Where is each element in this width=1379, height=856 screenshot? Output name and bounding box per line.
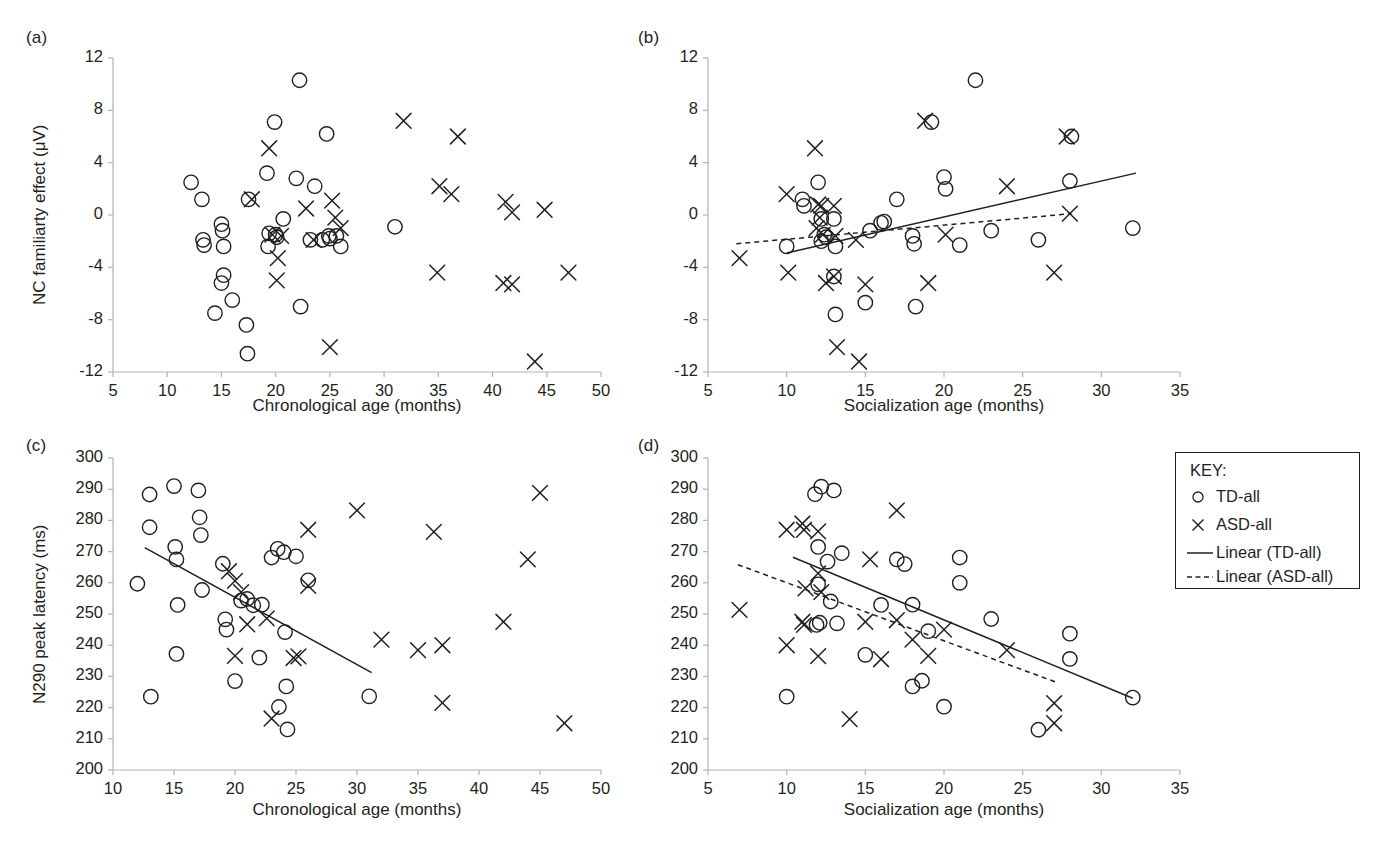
panel-d-point-asd xyxy=(842,712,857,727)
panel-b-point-asd xyxy=(830,340,845,355)
legend-item-linear-asd-all: Linear (ASD-all) xyxy=(1186,567,1333,586)
panel-a-y-tick: -12 xyxy=(51,361,103,380)
panel-b-point-asd xyxy=(781,265,796,280)
panel-d-x-axis-label: Socialization age (months) xyxy=(708,800,1180,820)
panel-d-y-tick: 300 xyxy=(646,447,698,466)
panel-c-point-td xyxy=(170,598,184,612)
panel-a-point-td xyxy=(225,293,239,307)
panel-b-point-asd xyxy=(732,251,747,266)
panel-c: (c) N290 peak latency (ms) Chronological… xyxy=(0,428,690,856)
panel-c-point-td xyxy=(216,557,230,571)
panel-d-point-td xyxy=(874,598,888,612)
panel-b-x-tick: 25 xyxy=(993,381,1053,400)
panel-b-point-td xyxy=(811,175,825,189)
panel-d-point-asd xyxy=(1047,716,1062,731)
panel-a-point-td xyxy=(241,192,255,206)
panel-d-point-td xyxy=(858,648,872,662)
panel-d-point-asd xyxy=(732,603,747,618)
panel-b-x-tick: 15 xyxy=(835,381,895,400)
panel-b-x-tick: 30 xyxy=(1071,381,1131,400)
panel-a-x-tick: 10 xyxy=(137,381,197,400)
panel-a-y-tick: 0 xyxy=(51,204,103,223)
panel-b-y-tick: -12 xyxy=(646,361,698,380)
panel-d-y-tick: 270 xyxy=(646,541,698,560)
panel-a: (a) NC familiarty effect (μV) Chronologi… xyxy=(0,0,690,428)
panel-b-point-td xyxy=(890,192,904,206)
panel-d-point-asd xyxy=(863,552,878,567)
panel-b-point-td xyxy=(984,224,998,238)
panel-a-x-tick: 35 xyxy=(408,381,468,400)
panel-b-point-asd xyxy=(779,187,794,202)
panel-a-point-asd xyxy=(306,232,321,247)
panel-b-point-asd xyxy=(1047,265,1062,280)
panel-c-point-td xyxy=(142,520,156,534)
panel-b-point-td xyxy=(858,295,872,309)
panel-d-x-tick: 35 xyxy=(1150,779,1210,798)
panel-a-point-td xyxy=(216,239,230,253)
panel-c-point-asd xyxy=(301,522,316,537)
panel-b-y-tick: 8 xyxy=(646,99,698,118)
panel-d-y-tick: 260 xyxy=(646,572,698,591)
panel-c-point-td xyxy=(167,479,181,493)
panel-a-point-asd xyxy=(322,340,337,355)
panel-c-point-td xyxy=(279,679,293,693)
panel-c-point-asd xyxy=(533,486,548,501)
panel-b-x-tick: 10 xyxy=(757,381,817,400)
panel-c-y-tick: 260 xyxy=(51,572,103,591)
panel-b-point-asd xyxy=(848,232,863,247)
circle-icon xyxy=(1186,489,1216,505)
panel-b-y-tick: -8 xyxy=(646,309,698,328)
panel-d-y-tick: 220 xyxy=(646,697,698,716)
panel-c-point-asd xyxy=(264,711,279,726)
panel-a-point-td xyxy=(267,115,281,129)
panel-c-point-td xyxy=(278,625,292,639)
panel-a-point-asd xyxy=(325,193,340,208)
panel-a-point-td xyxy=(293,299,307,313)
panel-c-point-td xyxy=(252,650,266,664)
panel-a-x-tick: 40 xyxy=(463,381,523,400)
panel-b-point-td xyxy=(828,307,842,321)
legend-item-asd-all: ASD-all xyxy=(1186,515,1272,534)
panel-a-point-asd xyxy=(498,195,513,210)
panel-a-point-td xyxy=(260,166,274,180)
panel-b-point-td xyxy=(907,237,921,251)
panel-c-x-tick: 15 xyxy=(144,779,204,798)
panel-d-point-td xyxy=(830,616,844,630)
panel-d-y-tick: 240 xyxy=(646,634,698,653)
panel-a-y-tick: 8 xyxy=(51,99,103,118)
panel-a-x-tick: 5 xyxy=(83,381,143,400)
panel-a-point-asd xyxy=(450,129,465,144)
panel-c-y-tick: 290 xyxy=(51,478,103,497)
panel-c-y-tick: 250 xyxy=(51,603,103,622)
panel-a-point-asd xyxy=(527,354,542,369)
panel-c-x-axis-label: Chronological age (months) xyxy=(113,800,601,820)
panel-c-x-tick: 45 xyxy=(510,779,570,798)
panel-c-x-tick: 20 xyxy=(205,779,265,798)
solid-line-icon xyxy=(1186,545,1216,561)
panel-c-point-td xyxy=(142,487,156,501)
panel-a-point-asd xyxy=(537,202,552,217)
panel-a-x-tick: 50 xyxy=(571,381,631,400)
panel-d-y-tick: 290 xyxy=(646,478,698,497)
panel-d-point-td xyxy=(921,624,935,638)
panel-a-point-asd xyxy=(270,251,285,266)
panel-c-point-td xyxy=(228,674,242,688)
panel-a-x-tick: 20 xyxy=(246,381,306,400)
panel-a-point-asd xyxy=(299,201,314,216)
panel-c-point-asd xyxy=(520,552,535,567)
panel-b-point-td xyxy=(1063,174,1077,188)
dashed-line-icon xyxy=(1186,569,1216,585)
panel-d-trendline-solid xyxy=(793,557,1133,698)
legend-item-label: TD-all xyxy=(1216,487,1260,506)
cross-icon xyxy=(1186,517,1216,533)
panel-c-point-asd xyxy=(435,696,450,711)
panel-d-point-td xyxy=(937,699,951,713)
legend-item-label: Linear (ASD-all) xyxy=(1216,567,1333,586)
panel-c-point-asd xyxy=(496,614,511,629)
panel-a-point-asd xyxy=(505,205,520,220)
panel-b-point-asd xyxy=(826,198,841,213)
panel-d-point-asd xyxy=(1000,643,1015,658)
panel-b-y-tick: 12 xyxy=(646,47,698,66)
panel-d-point-td xyxy=(811,540,825,554)
panel-c-y-tick: 300 xyxy=(51,447,103,466)
